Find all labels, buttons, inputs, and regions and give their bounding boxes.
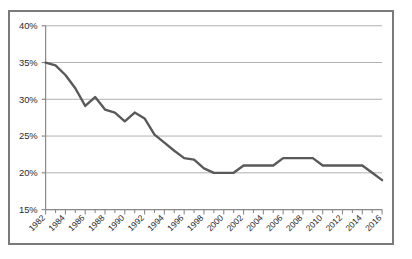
y-tick-label: 30% [19,95,38,105]
x-tick-label: 2016 [363,213,384,234]
x-tick-label: 1988 [86,213,107,234]
x-tick-label: 1996 [165,213,186,234]
y-tick-label: 25% [19,131,38,141]
y-tick-label: 35% [19,58,38,68]
x-tick-label: 2008 [284,213,305,234]
x-tick-label: 2006 [264,213,285,234]
x-axis-tick-labels: 1982198419861988199019921994199619982000… [27,213,384,234]
x-tick-label: 2004 [244,213,265,234]
series-line [46,63,382,181]
x-tick-label: 1982 [27,213,48,234]
x-axis-tick-marks [46,210,382,215]
x-tick-label: 2002 [225,213,246,234]
gridlines [46,26,382,210]
figure-caption [8,247,404,259]
x-tick-label: 2000 [205,213,226,234]
chart-svg: 40%35%30%25%20%15% 198219841986198819901… [10,12,392,243]
x-tick-label: 2014 [343,213,364,234]
x-tick-label: 2012 [323,213,344,234]
x-tick-label: 1994 [145,213,166,234]
x-tick-label: 1986 [66,213,87,234]
y-tick-label: 20% [19,168,38,178]
y-tick-label: 15% [19,205,38,215]
axis-lines [46,26,382,210]
line-chart: 40%35%30%25%20%15% 198219841986198819901… [10,12,392,243]
data-series-group [46,63,382,181]
page-canvas: 40%35%30%25%20%15% 198219841986198819901… [0,0,412,259]
y-tick-label: 40% [19,21,38,31]
x-tick-label: 1992 [126,213,147,234]
x-tick-label: 2010 [304,213,325,234]
x-tick-label: 1998 [185,213,206,234]
figure-frame: 40%35%30%25%20%15% 198219841986198819901… [8,10,394,245]
x-tick-label: 1984 [46,213,67,234]
y-axis-tick-labels: 40%35%30%25%20%15% [19,21,38,215]
x-tick-label: 1990 [106,213,127,234]
